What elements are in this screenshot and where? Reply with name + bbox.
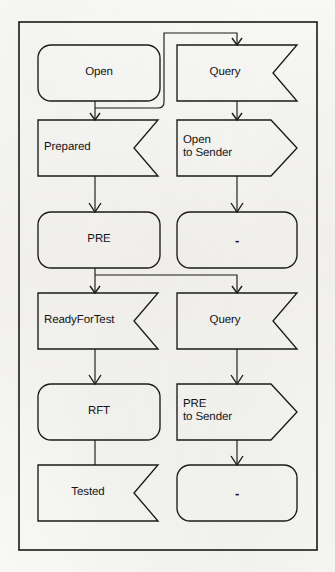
signal-tested-shape[interactable] <box>38 465 158 521</box>
state-open-shape[interactable] <box>38 45 160 101</box>
state-transition-diagram <box>0 0 335 572</box>
signal-prepared-shape[interactable] <box>38 120 158 176</box>
signal-query-2-shape[interactable] <box>177 293 297 349</box>
state-dash-1-shape[interactable] <box>177 212 297 268</box>
signal-query-1-shape[interactable] <box>177 45 297 101</box>
message-open-to-sender-shape[interactable] <box>177 120 297 176</box>
connector-open-to-query-1 <box>95 33 237 108</box>
diagram-page: Open Query Prepared Open to Sender PRE -… <box>0 0 335 572</box>
state-dash-2-shape[interactable] <box>177 465 297 521</box>
state-pre-shape[interactable] <box>38 212 160 268</box>
signal-readyfortest-shape[interactable] <box>38 293 158 349</box>
message-pre-to-sender-shape[interactable] <box>177 384 297 440</box>
state-rft-shape[interactable] <box>38 384 160 440</box>
connector-pre-to-query-2 <box>95 275 237 293</box>
